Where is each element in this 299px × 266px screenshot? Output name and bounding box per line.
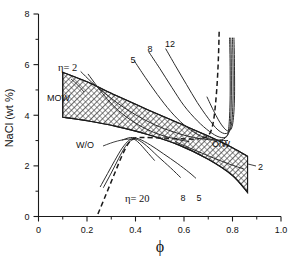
annotation-eta-2-upper: η= 2 [58,62,77,73]
x-tick-label: 0.2 [81,225,94,235]
x-axis-title: ϕ [156,238,164,256]
phase-diagram-chart: 02468 00.20.40.60.81.0 ϕ NaCl (wt %) η= … [0,0,299,266]
x-tick-label: 0.4 [129,225,142,235]
curve-upper-branch-12 [166,38,233,134]
annotation-2-right: 2 [258,162,263,172]
y-axis-title: NaCl (wt %) [3,89,15,148]
x-tick-label: 0 [36,225,41,235]
annotation-8-upper: 8 [147,44,152,54]
y-tick-label: 2 [24,161,29,171]
annotation-eta-20-lower: η= 20 [125,193,150,204]
annotation-5-upper: 5 [130,55,135,65]
annotation-mow: MOW [47,93,70,103]
x-tick-labels: 00.20.40.60.81.0 [36,225,287,235]
x-tick-label: 0.6 [178,225,191,235]
x-tick-label: 0.8 [226,225,239,235]
mow-band-crosshatch [63,72,248,192]
y-tick-label: 0 [24,212,29,222]
annotation-8-lower: 8 [180,193,185,203]
y-tick-label: 8 [24,9,29,19]
x-axis-ticks [39,217,282,222]
y-tick-label: 6 [24,60,29,70]
curve-upper-dashed-boundary [197,32,219,139]
annotation-12-upper: 12 [165,39,175,49]
y-tick-label: 4 [24,111,29,121]
y-tick-labels: 02468 [24,9,29,222]
figure-container: 02468 00.20.40.60.81.0 ϕ NaCl (wt %) η= … [0,0,299,266]
annotation-wo: W/O [76,140,94,150]
annotation-5-lower: 5 [196,193,201,203]
mow-band-group [63,72,248,192]
annotation-ow: O/W [212,139,231,149]
c2-right-leader-line [248,164,256,166]
y-axis-ticks [34,14,39,217]
x-tick-label: 1.0 [275,225,288,235]
